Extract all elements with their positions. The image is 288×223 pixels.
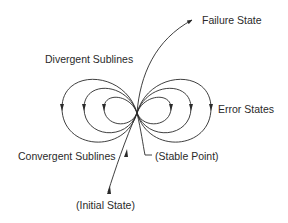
- convergent-sublines-label: Convergent Sublines: [18, 150, 115, 162]
- initial-state-label: (Initial State): [76, 199, 135, 211]
- error-loop-right-middle: [137, 88, 191, 132]
- stable-point-label: (Stable Point): [155, 150, 219, 162]
- error-states-label: Error States: [218, 103, 274, 115]
- divergent-loop-left-middle: [84, 88, 137, 132]
- loop-arrowheads: [60, 104, 213, 194]
- divergent-sublines-label: Divergent Sublines: [45, 53, 133, 65]
- failure-state-label: Failure State: [202, 14, 262, 26]
